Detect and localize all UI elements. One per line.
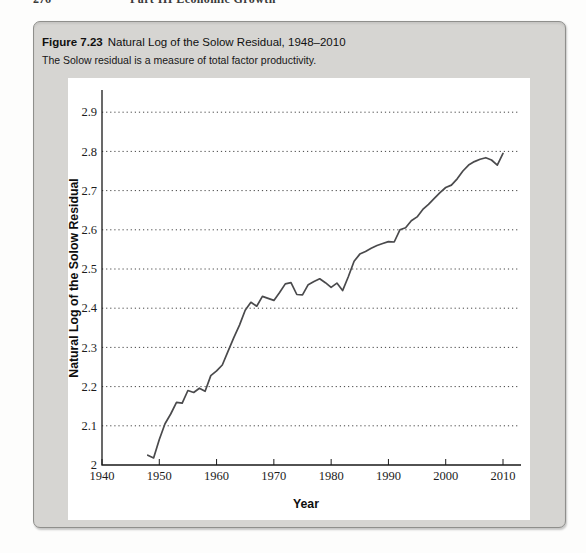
chart-panel: 1940195019601970198019902000201022.12.22… [68, 78, 530, 520]
y-tick-label: 2 [91, 458, 97, 472]
x-tick-label: 1960 [204, 469, 229, 483]
x-tick-label: 1990 [376, 469, 401, 483]
x-tick-label: 1970 [261, 469, 286, 483]
figure-title: Figure 7.23Natural Log of the Solow Resi… [42, 36, 346, 48]
y-tick-label: 2.5 [81, 262, 97, 276]
y-tick-label: 2.3 [81, 341, 97, 355]
y-tick-label: 2.1 [81, 419, 97, 433]
data-line [148, 153, 503, 458]
y-tick-label: 2.6 [81, 223, 97, 237]
figure-caption: The Solow residual is a measure of total… [42, 54, 316, 66]
x-tick-label: 2010 [491, 469, 516, 483]
figure-label: Figure 7.23 [42, 36, 103, 48]
figure-box: Figure 7.23Natural Log of the Solow Resi… [33, 21, 566, 528]
y-tick-label: 2.4 [81, 301, 97, 315]
y-tick-label: 2.7 [81, 184, 97, 198]
y-tick-label: 2.2 [81, 380, 97, 394]
axes [102, 90, 521, 465]
x-tick-label: 1950 [147, 469, 172, 483]
running-head: Part III Economic Growth [130, 0, 276, 5]
y-axis-title: Natural Log of the Solow Residual [68, 178, 81, 378]
figure-title-text: Natural Log of the Solow Residual, 1948–… [108, 36, 346, 48]
page-header: 276 Part III Economic Growth [0, 0, 586, 7]
chart-svg: 1940195019601970198019902000201022.12.22… [68, 78, 530, 520]
x-tick-label: 1980 [319, 469, 344, 483]
y-tick-label: 2.8 [81, 145, 97, 159]
x-tick-label: 2000 [433, 469, 458, 483]
page-number: 276 [33, 0, 51, 5]
y-tick-label: 2.9 [81, 105, 97, 119]
x-axis-title: Year [293, 497, 319, 511]
